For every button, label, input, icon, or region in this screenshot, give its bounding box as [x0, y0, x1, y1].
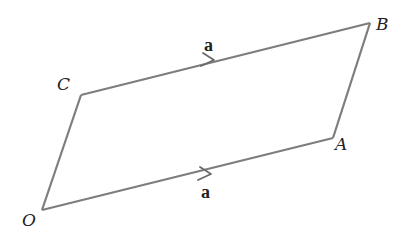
- parallelogram-diagram: O A B C a a: [0, 0, 411, 244]
- vertex-label-A: A: [333, 134, 347, 154]
- vertex-label-O: O: [22, 210, 36, 230]
- vector-label-bottom: a: [201, 182, 210, 202]
- edge-OA: [42, 138, 333, 210]
- edge-OC: [42, 95, 81, 210]
- vertex-label-C: C: [57, 74, 70, 94]
- edge-CB: [81, 23, 370, 95]
- vector-label-top: a: [204, 35, 213, 55]
- edge-AB: [333, 23, 370, 138]
- vertex-label-B: B: [375, 14, 389, 34]
